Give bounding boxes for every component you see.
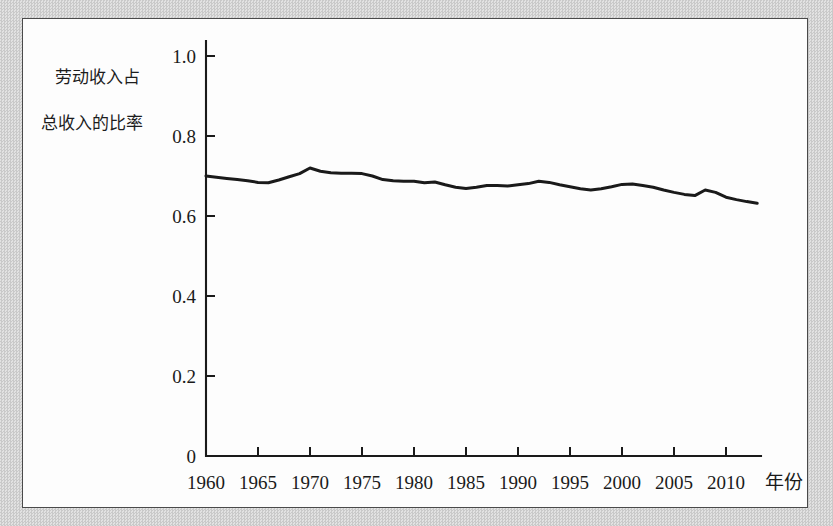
x-tick-label: 1975: [343, 472, 381, 493]
y-axis-ticks: [206, 56, 215, 456]
x-tick-label: 1970: [291, 472, 329, 493]
x-tick-label: 1985: [447, 472, 485, 493]
y-tick-label: 0.6: [172, 206, 196, 227]
x-axis-ticks: [206, 447, 726, 456]
figure-plate: 劳动收入占 总收入的比率 00.20.40.60.81.0 1960196519…: [22, 18, 808, 508]
series-line: [206, 168, 757, 203]
y-tick-label: 0.8: [172, 126, 196, 147]
x-axis-unit-label: 年份: [765, 471, 803, 493]
line-chart: 00.20.40.60.81.0 19601965197019751980198…: [23, 19, 809, 509]
x-tick-label: 2000: [603, 472, 641, 493]
y-tick-label: 0: [187, 446, 197, 467]
y-tick-label: 0.2: [172, 366, 196, 387]
x-tick-label: 1990: [499, 472, 537, 493]
x-tick-label: 1960: [187, 472, 225, 493]
x-tick-label: 1995: [551, 472, 589, 493]
data-series: [206, 168, 757, 203]
x-tick-label: 2010: [707, 472, 745, 493]
x-axis-tick-labels: 1960196519701975198019851990199520002005…: [187, 472, 745, 493]
axis-lines: [206, 41, 761, 456]
figure-page: 劳动收入占 总收入的比率 00.20.40.60.81.0 1960196519…: [0, 0, 833, 526]
x-tick-label: 1980: [395, 472, 433, 493]
figure-plate-inner: 劳动收入占 总收入的比率 00.20.40.60.81.0 1960196519…: [23, 19, 807, 507]
x-tick-label: 1965: [239, 472, 277, 493]
y-tick-label: 1.0: [172, 46, 196, 67]
y-tick-label: 0.4: [172, 286, 196, 307]
x-tick-label: 2005: [655, 472, 693, 493]
y-axis-tick-labels: 00.20.40.60.81.0: [172, 46, 196, 467]
axes: [206, 41, 761, 456]
